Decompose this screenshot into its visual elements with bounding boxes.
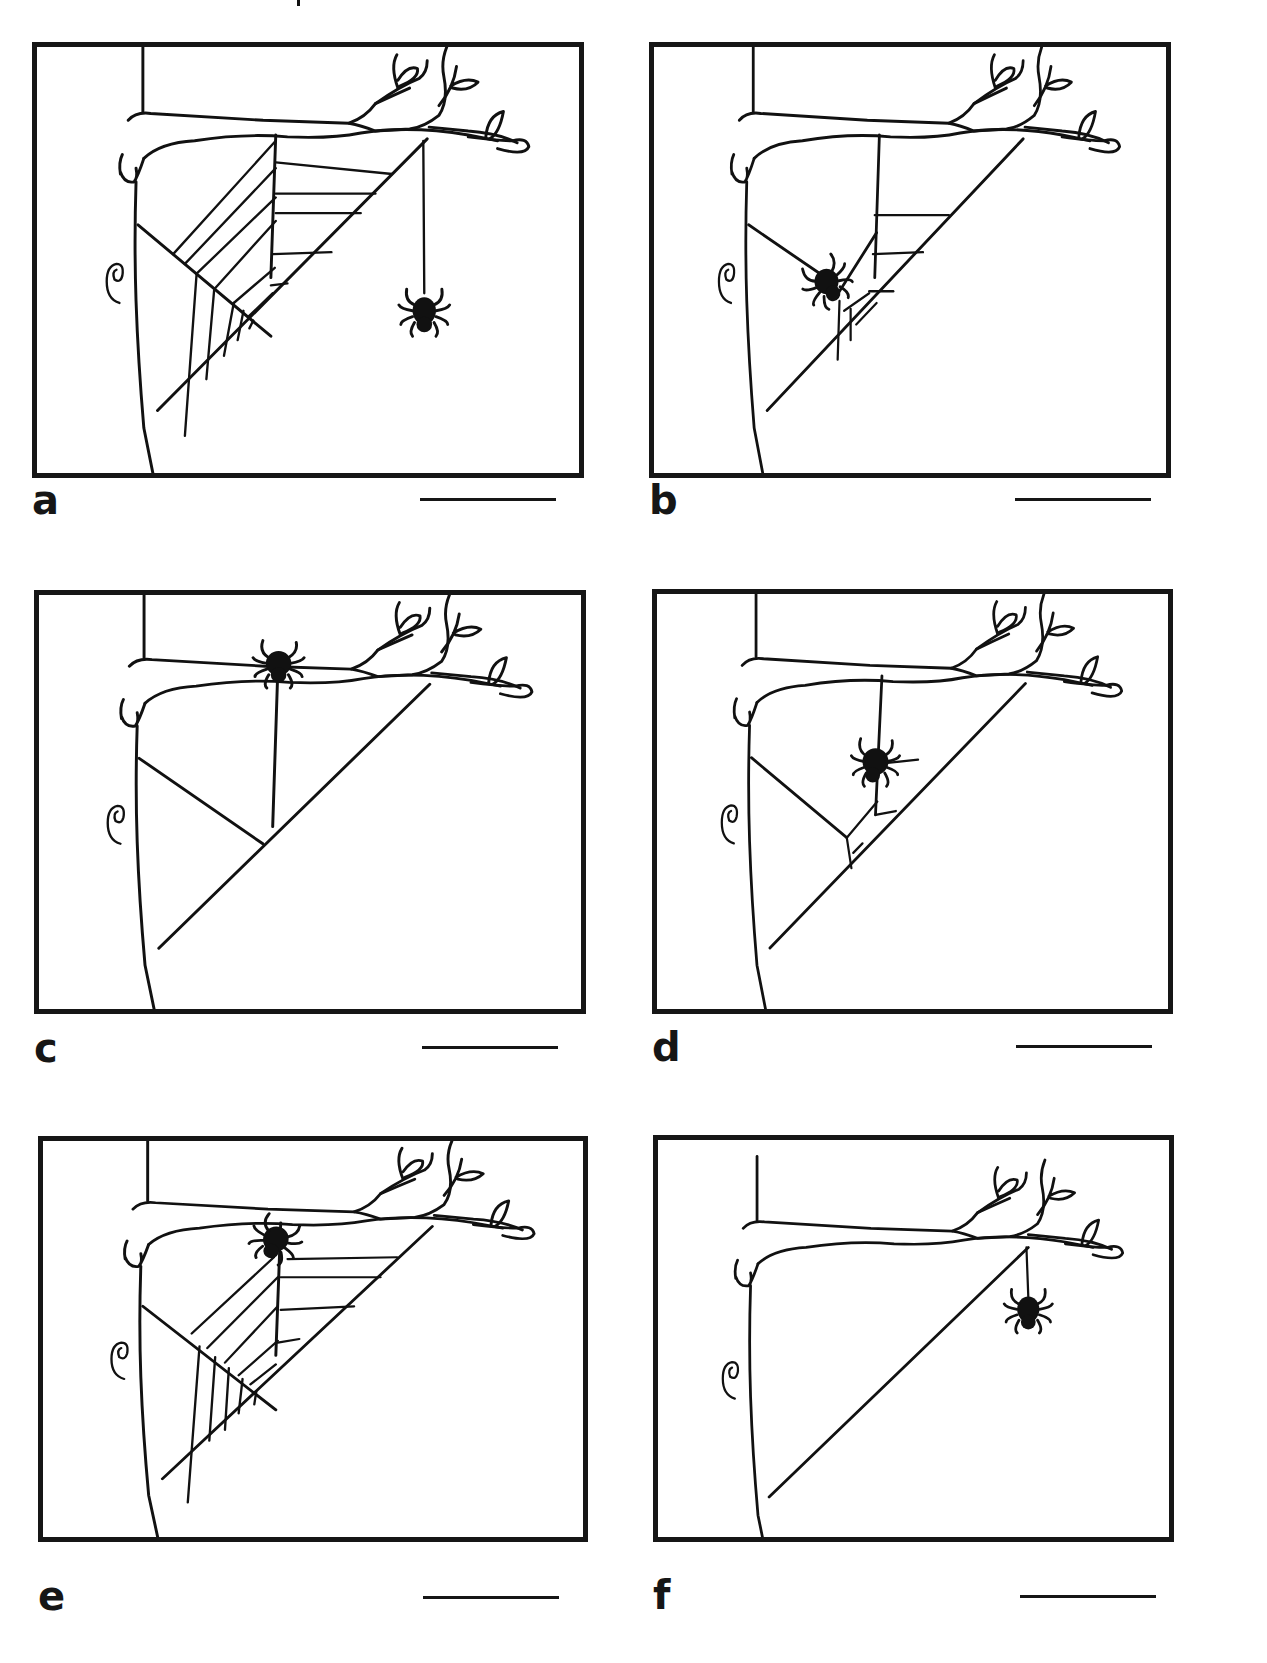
- panel-b-illustration: [654, 47, 1166, 473]
- top-edge-mark: [297, 0, 300, 6]
- answer-line-f[interactable]: [1020, 1595, 1156, 1598]
- answer-line-b[interactable]: [1015, 498, 1151, 501]
- panel-label-c: c: [34, 1028, 58, 1068]
- panel-label-a: a: [32, 480, 59, 520]
- panel-e-illustration: [43, 1141, 583, 1537]
- panel-label-e: e: [38, 1576, 65, 1616]
- panel-e-frame: [38, 1136, 588, 1542]
- panel-c-frame: [34, 590, 586, 1014]
- panel-d-frame: [652, 589, 1173, 1014]
- answer-line-e[interactable]: [423, 1596, 559, 1599]
- panel-c-illustration: [39, 595, 581, 1009]
- answer-line-d[interactable]: [1016, 1045, 1152, 1048]
- panel-d-illustration: [657, 594, 1168, 1009]
- spider-icon: [399, 289, 450, 336]
- panel-a-illustration: [37, 47, 579, 473]
- answer-line-c[interactable]: [422, 1046, 558, 1049]
- panel-b-frame: [649, 42, 1171, 478]
- panel-a-frame: [32, 42, 584, 478]
- panel-label-f: f: [653, 1575, 670, 1615]
- panel-label-d: d: [652, 1027, 681, 1067]
- spider-icon: [243, 1211, 308, 1270]
- panel-f-illustration: [658, 1140, 1169, 1537]
- panel-f-frame: [653, 1135, 1174, 1542]
- answer-line-a[interactable]: [420, 498, 556, 501]
- panel-label-b: b: [649, 480, 678, 520]
